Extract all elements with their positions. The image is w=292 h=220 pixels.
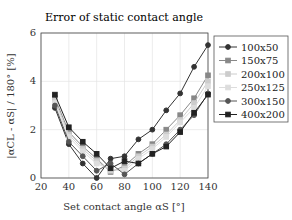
svg-text:300x150: 300x150 bbox=[241, 96, 285, 107]
data-series bbox=[53, 43, 211, 181]
x-tick-label: 100 bbox=[143, 181, 162, 192]
y-tick-label: 0 bbox=[30, 172, 36, 183]
line-chart: Error of static contact angle 2040608010… bbox=[0, 0, 292, 220]
x-tick-label: 80 bbox=[118, 181, 131, 192]
x-tick-label: 140 bbox=[198, 181, 217, 192]
x-tick-label: 20 bbox=[35, 181, 48, 192]
svg-text:150x75: 150x75 bbox=[241, 55, 278, 66]
y-tick-label: 2 bbox=[30, 124, 36, 135]
svg-text:250x125: 250x125 bbox=[241, 82, 285, 93]
svg-text:200x100: 200x100 bbox=[241, 69, 285, 80]
y-tick-label: 6 bbox=[30, 27, 36, 38]
x-tick-label: 120 bbox=[171, 181, 190, 192]
series-300x150 bbox=[53, 91, 211, 177]
x-axis-label: Set contact angle αS [°] bbox=[63, 201, 185, 212]
series-200x100 bbox=[53, 79, 211, 173]
y-axis-ticks: 0246 bbox=[30, 27, 36, 183]
series-400x200 bbox=[53, 92, 211, 170]
x-tick-label: 60 bbox=[90, 181, 103, 192]
svg-text:400x200: 400x200 bbox=[241, 109, 285, 120]
legend: 100x50150x75200x100250x125300x150400x200 bbox=[214, 36, 288, 122]
x-tick-label: 40 bbox=[62, 181, 75, 192]
chart-title: Error of static contact angle bbox=[45, 11, 203, 24]
x-axis-ticks: 20406080100120140 bbox=[35, 181, 218, 192]
y-axis-label: |αCL - αS| / 180° [%] bbox=[5, 53, 17, 159]
svg-text:100x50: 100x50 bbox=[241, 42, 278, 53]
y-tick-label: 4 bbox=[30, 75, 36, 86]
